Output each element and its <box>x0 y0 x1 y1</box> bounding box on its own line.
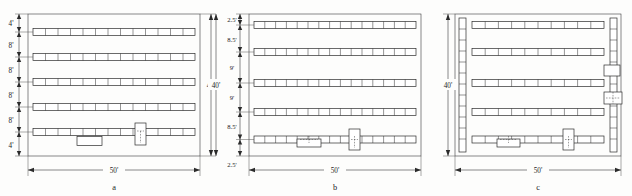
panel-b-dim-5: 8.5' <box>227 123 236 130</box>
panel-c-row-1 <box>472 22 604 29</box>
panel-b-row-3 <box>254 80 416 87</box>
panel-c-right-side-rack <box>610 18 617 152</box>
panel-a-row-1 <box>33 29 195 36</box>
panel-c-row-4 <box>472 109 604 116</box>
technical-drawing: 4' 8' 8' 8' 8' 4' 40' 50' a <box>0 0 632 196</box>
panel-a-row-5 <box>33 129 195 136</box>
panel-c-left-side-rack <box>459 18 466 152</box>
panel-b-vertical-dimension-chain: 2.5' 8.5' 9' 9' 8.5' 2.5' <box>227 14 254 168</box>
panel-c-row-3 <box>472 80 604 87</box>
panel-b-row-1 <box>254 22 416 29</box>
panel-c-height-label: 40' <box>444 82 452 90</box>
panel-b-dim-2: 8.5' <box>227 36 236 43</box>
panel-a-dim-2: 8' <box>9 42 14 50</box>
panel-c: 40' 50' c <box>440 14 622 192</box>
panel-a-row-2 <box>33 54 195 61</box>
panel-c-right-booth-upper <box>604 65 620 76</box>
panel-a-width-label: 50' <box>110 167 118 175</box>
panel-c-rows <box>472 22 604 144</box>
panel-c-row-5 <box>472 136 604 143</box>
panel-b-rows <box>254 22 416 144</box>
panel-a-rows <box>33 29 195 136</box>
panel-b-row-2 <box>254 49 416 56</box>
panel-b-dim-1: 2.5' <box>227 16 236 23</box>
panel-b-dim-6: 2.5' <box>227 161 236 168</box>
panel-b-caption: b <box>333 183 337 192</box>
panel-b-height-dimension: 40' <box>208 14 225 156</box>
panel-a-dim-5: 8' <box>9 117 14 125</box>
panel-a-island-box <box>77 137 102 146</box>
panel-a-dim-3: 8' <box>9 67 14 75</box>
panel-c-row-2 <box>472 49 604 56</box>
panel-a-dim-6: 4' <box>9 142 14 150</box>
panel-c-caption: c <box>536 183 540 192</box>
panel-a-vertical-dimension-chain: 4' 8' 8' 8' 8' 4' <box>9 14 33 156</box>
panel-a-row-4 <box>33 104 195 111</box>
panel-a-dim-4: 8' <box>9 92 14 100</box>
panel-a-width-dimension: 50' <box>28 156 200 176</box>
panel-c-width-dimension: 50' <box>455 156 621 176</box>
panel-b: 2.5' 8.5' 9' 9' 8.5' 2.5' 40' 50' b <box>208 14 421 192</box>
panel-a: 4' 8' 8' 8' 8' 4' 40' 50' a <box>9 14 220 192</box>
panel-c-height-dimension: 40' <box>440 14 457 156</box>
panel-b-width-dimension: 50' <box>249 156 421 176</box>
panel-b-width-label: 50' <box>331 167 339 175</box>
panel-a-row-3 <box>33 79 195 86</box>
panel-a-caption: a <box>112 183 116 192</box>
panel-b-dim-3: 9' <box>230 64 235 71</box>
panel-b-height-label: 40' <box>212 82 220 90</box>
panel-b-dim-4: 9' <box>230 94 235 101</box>
panel-a-dim-1: 4' <box>9 20 14 28</box>
panel-b-row-5 <box>254 136 416 143</box>
drawing-sheet: 4' 8' 8' 8' 8' 4' 40' 50' a <box>0 0 632 196</box>
panel-b-row-4 <box>254 109 416 116</box>
panel-c-width-label: 50' <box>534 167 542 175</box>
